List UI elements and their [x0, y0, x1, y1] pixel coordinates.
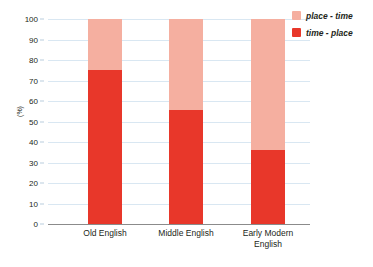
y-tick-mark: [40, 183, 44, 184]
legend-swatch-icon: [292, 11, 301, 20]
bar-segment-time-place[interactable]: [169, 110, 203, 224]
y-tick-label: 80: [29, 56, 38, 65]
x-axis-labels: Old EnglishMiddle EnglishEarly Modern En…: [48, 228, 310, 264]
gridline: [48, 224, 310, 225]
y-tick-mark: [40, 39, 44, 40]
y-tick-label: 90: [29, 35, 38, 44]
bar-segment-time-place[interactable]: [88, 70, 122, 224]
legend-label: time - place: [306, 28, 353, 38]
bar-segment-place-time[interactable]: [251, 19, 285, 150]
chart-legend: place - time time - place: [292, 10, 372, 44]
stacked-bar-chart: (%) 1009080706050403020100 Old EnglishMi…: [0, 0, 373, 267]
y-tick-label: 40: [29, 138, 38, 147]
y-tick-label: 30: [29, 158, 38, 167]
y-tick-label: 50: [29, 117, 38, 126]
bars-layer: [48, 19, 310, 224]
legend-label: place - time: [306, 11, 353, 21]
bar-segment-time-place[interactable]: [251, 150, 285, 224]
y-tick-mark: [40, 60, 44, 61]
y-tick-mark: [40, 19, 44, 20]
y-tick-mark: [40, 101, 44, 102]
y-tick-label: 100: [25, 15, 38, 24]
bar-segment-place-time[interactable]: [88, 19, 122, 70]
y-tick-label: 20: [29, 179, 38, 188]
y-tick-mark: [40, 80, 44, 81]
y-tick-label: 60: [29, 97, 38, 106]
y-tick-mark: [40, 224, 44, 225]
y-tick-mark: [40, 121, 44, 122]
x-axis-label: Middle English: [146, 228, 226, 239]
bar-group[interactable]: [88, 19, 122, 224]
legend-item-place-time[interactable]: place - time: [292, 10, 372, 21]
y-tick-mark: [40, 203, 44, 204]
legend-item-time-place[interactable]: time - place: [292, 27, 372, 38]
y-tick-label: 70: [29, 76, 38, 85]
y-tick-mark: [40, 142, 44, 143]
y-tick-label: 0: [34, 220, 38, 229]
plot-area: [48, 19, 310, 224]
y-tick-mark: [40, 162, 44, 163]
x-axis-label: Early Modern English: [228, 228, 308, 250]
x-axis-label: Old English: [65, 228, 145, 239]
bar-group[interactable]: [251, 19, 285, 224]
y-axis-ticks: 1009080706050403020100: [0, 19, 44, 224]
bar-group[interactable]: [169, 19, 203, 224]
y-tick-label: 10: [29, 199, 38, 208]
legend-swatch-icon: [292, 28, 301, 37]
bar-segment-place-time[interactable]: [169, 19, 203, 110]
